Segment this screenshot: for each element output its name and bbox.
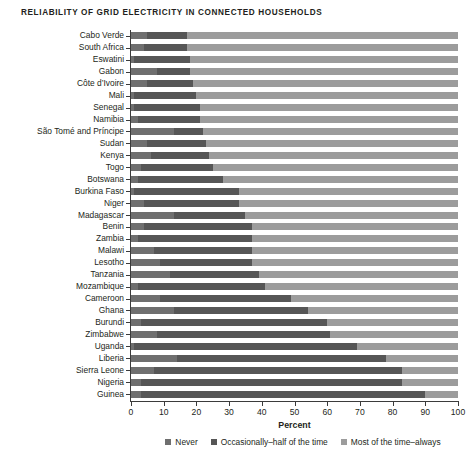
bar-row [131,367,458,374]
legend-item[interactable]: Occasionally–half of the time [211,437,328,447]
y-axis-tick [126,203,130,204]
y-axis-tick [126,346,130,347]
x-axis-tick [229,402,230,406]
bar-segment [131,355,177,362]
y-axis-label: Malawi [0,245,124,255]
bar-segment [131,367,154,374]
y-axis-label: Nigeria [0,377,124,387]
bar-row [131,259,458,266]
y-axis-tick [126,155,130,156]
bar-row [131,379,458,386]
y-axis-tick [126,60,130,61]
bar-segment [402,379,458,386]
bar-segment [131,295,160,302]
bar-segment [147,140,206,147]
legend-item[interactable]: Most of the time–always [341,437,441,447]
x-axis-tick [295,402,296,406]
y-axis-tick [126,191,130,192]
bar-segment [190,68,458,75]
bar-segment [144,44,187,51]
x-axis-tick [262,402,263,406]
bar-segment [213,164,458,171]
bar-segment [131,319,141,326]
bar-segment [131,331,157,338]
bar-row [131,235,458,242]
y-axis-tick [126,287,130,288]
bar-segment [170,271,258,278]
bar-segment [131,271,170,278]
y-axis-tick [126,227,130,228]
legend-swatch-icon [165,439,171,445]
y-axis-tick [126,120,130,121]
y-axis-labels: Cabo VerdeSouth AfricaEswatiniGabonCôte … [0,30,124,401]
x-axis-tick-label: 0 [129,407,134,417]
bar-segment [147,32,186,39]
y-axis-tick [126,167,130,168]
legend-item[interactable]: Never [165,437,197,447]
bar-segment [200,104,458,111]
x-axis-tick-label: 70 [355,407,365,417]
bar-segment [131,68,157,75]
bar-segment [206,140,458,147]
bar-segment [160,259,252,266]
y-axis-tick [126,48,130,49]
y-axis-label: Côte d’Ivoire [0,78,124,88]
bar-segment [131,212,174,219]
bar-segment [151,152,210,159]
y-axis-tick [126,358,130,359]
bar-segment [138,176,223,183]
bar-row [131,80,458,87]
y-axis-label: Botswana [0,174,124,184]
y-axis-label: Uganda [0,341,124,351]
chart-legend: NeverOccasionally–half of the timeMost o… [131,437,475,447]
bar-row [131,176,458,183]
bar-segment [131,152,151,159]
y-axis-label: Niger [0,198,124,208]
bar-segment [252,235,458,242]
y-axis-tick [126,215,130,216]
bar-row [131,32,458,39]
legend-swatch-icon [211,439,217,445]
bar-row [131,104,458,111]
chart-title: RELIABILITY OF GRID ELECTRICITY IN CONNE… [21,8,322,17]
x-axis-tick-label: 20 [192,407,202,417]
bar-segment [425,391,458,398]
bar-segment [131,307,174,314]
y-axis-label: Gabon [0,66,124,76]
bar-segment [265,283,458,290]
x-axis-tick [458,402,459,406]
y-axis-label: Zambia [0,233,124,243]
bar-segment [402,367,458,374]
y-axis-label: Burkina Faso [0,186,124,196]
bar-row [131,56,458,63]
bar-row [131,283,458,290]
legend-label: Most of the time–always [351,437,441,447]
y-axis-label: Senegal [0,102,124,112]
y-axis-label: Benin [0,221,124,231]
bar-segment [291,295,458,302]
y-axis-tick [126,72,130,73]
x-axis-tick-label: 60 [322,407,332,417]
y-axis-tick [126,299,130,300]
bar-row [131,200,458,207]
bar-segment [131,32,147,39]
y-axis-label: Togo [0,162,124,172]
bar-segment [131,164,141,171]
bar-row [131,68,458,75]
bar-row [131,223,458,230]
bar-row [131,319,458,326]
y-axis-tick [126,36,130,37]
y-axis-tick [126,143,130,144]
bar-row [131,295,458,302]
y-axis-tick [126,394,130,395]
bar-segment [147,80,193,87]
bar-row [131,164,458,171]
y-axis-label: South Africa [0,42,124,52]
bar-segment [174,307,308,314]
bar-segment [131,128,174,135]
bar-segment [154,367,403,374]
x-axis-tick [164,402,165,406]
x-axis-tick [196,402,197,406]
bar-segment [252,259,458,266]
y-axis-label: Zimbabwe [0,329,124,339]
